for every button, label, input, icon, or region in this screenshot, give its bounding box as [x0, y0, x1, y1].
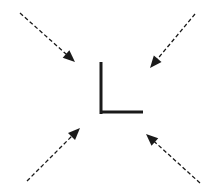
dashed-arrow-top-right	[155, 14, 195, 62]
diagram-canvas	[0, 0, 216, 196]
dashed-arrow-top-left	[20, 13, 69, 57]
arrowhead-icon	[146, 134, 158, 146]
arrowhead-icon	[150, 56, 162, 68]
dashed-arrow-bottom-left	[27, 134, 74, 181]
l-corner-shape	[100, 62, 143, 114]
dashed-arrow-bottom-right	[152, 139, 200, 183]
